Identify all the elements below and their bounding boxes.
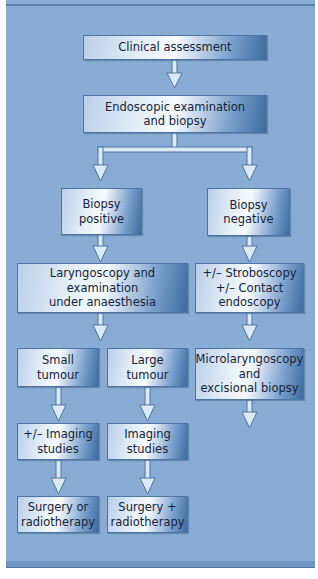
node-large-tumour: Large tumour — [107, 348, 188, 387]
node-surgery-plus-radiotherapy: Surgery + radiotherapy — [107, 496, 188, 533]
node-clinical-assessment: Clinical assessment — [83, 35, 267, 60]
node-label: Imaging studies — [124, 427, 171, 456]
node-label: Clinical assessment — [118, 40, 231, 55]
node-stroboscopy: +/– Stroboscopy +/– Contact endoscopy — [195, 263, 304, 313]
node-small-tumour: Small tumour — [17, 348, 99, 387]
arrow-head-down-icon — [93, 165, 108, 181]
arrow-head-down-icon — [242, 165, 257, 181]
node-microlaryngoscopy: Microlaryngoscopy and excisional biopsy — [195, 348, 304, 400]
node-label: Biopsy negative — [223, 198, 273, 227]
node-label: Large tumour — [126, 353, 168, 382]
arrow-shaft — [172, 60, 177, 74]
node-surgery-or-radiotherapy: Surgery or radiotherapy — [17, 496, 99, 533]
node-label: Biopsy positive — [79, 197, 124, 226]
node-label: Endoscopic examination and biopsy — [105, 100, 245, 129]
node-imaging-optional: +/– Imaging studies — [17, 423, 99, 460]
arrow-head-down-icon — [167, 73, 182, 88]
node-laryngoscopy: Laryngoscopy and examination under anaes… — [17, 263, 188, 313]
node-endoscopic-examination: Endoscopic examination and biopsy — [83, 95, 267, 133]
node-label: Small tumour — [37, 353, 79, 382]
node-label: Laryngoscopy and examination under anaes… — [49, 266, 156, 310]
node-label: Surgery + radiotherapy — [110, 500, 184, 529]
node-label: Surgery or radiotherapy — [21, 500, 95, 529]
node-imaging: Imaging studies — [107, 423, 188, 460]
node-label: +/– Imaging studies — [23, 427, 93, 456]
node-label: Microlaryngoscopy and excisional biopsy — [196, 352, 304, 396]
node-label: +/– Stroboscopy +/– Contact endoscopy — [202, 266, 296, 310]
node-biopsy-positive: Biopsy positive — [61, 188, 142, 235]
node-biopsy-negative: Biopsy negative — [207, 188, 290, 236]
